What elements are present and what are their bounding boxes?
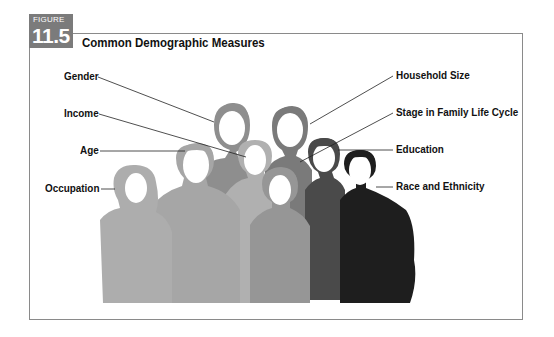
silhouette-education (305, 138, 345, 300)
label-gender: Gender (64, 70, 99, 82)
silhouette-occupation (100, 165, 172, 303)
label-occupation: Occupation (45, 182, 99, 194)
label-age: Age (80, 144, 99, 156)
label-race-and-ethnicity: Race and Ethnicity (396, 180, 485, 192)
label-household-size: Household Size (396, 69, 470, 81)
silhouette-race-ethnicity (340, 150, 415, 303)
label-education: Education (396, 143, 444, 155)
label-stage-in-family-life-cycle: Stage in Family Life Cycle (396, 106, 518, 118)
people-silhouettes-illustration (0, 0, 554, 337)
label-income: Income (64, 107, 99, 119)
